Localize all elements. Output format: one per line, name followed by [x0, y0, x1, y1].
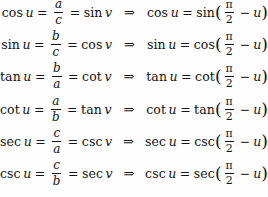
complement-angle-variable: v	[106, 166, 113, 181]
side-ratio-fraction: c a	[52, 127, 61, 156]
minus-sign: −	[237, 166, 253, 181]
close-paren: )	[261, 165, 268, 182]
cofunction-identity-expression: secu = csc( π 2 − u)	[143, 128, 268, 154]
fraction-denominator: b	[52, 175, 62, 188]
equals-sign: =	[64, 134, 81, 149]
equals-sign: =	[64, 166, 81, 181]
angle-variable: u	[168, 166, 176, 181]
open-paren: (	[215, 165, 222, 182]
open-paren: (	[215, 101, 222, 118]
trig-function-name: tan	[146, 69, 167, 84]
ratio-identity-expression: cscu = c b = secv	[0, 159, 115, 188]
ratio-identity-expression: tanu = b a = cotv	[0, 62, 113, 91]
equals-sign: =	[31, 166, 48, 181]
side-ratio-fraction: a c	[54, 0, 63, 26]
ratio-identity-expression: cosu = a c = sinv	[0, 0, 114, 26]
close-paren: )	[261, 133, 268, 150]
ratio-identity-expression: sinu = b c = cosv	[0, 30, 114, 59]
open-paren: (	[215, 68, 222, 85]
identity-row: cscu = c b = secv ⇒ cscu = sec( π 2 − u)	[0, 157, 268, 189]
cofunction-name: sec	[82, 166, 103, 181]
cofunction-identity-expression: sinu = cos( π 2 − u)	[145, 31, 268, 57]
complement-angle-variable: u	[253, 37, 261, 52]
implies-arrow-icon: ⇒	[115, 167, 143, 180]
complement-angle-variable: v	[104, 102, 111, 117]
implies-arrow-icon: ⇒	[114, 38, 145, 51]
angle-variable: u	[24, 134, 32, 149]
complement-angle-variable: u	[253, 5, 261, 20]
close-paren: )	[261, 68, 268, 85]
fraction-denominator: 2	[225, 111, 234, 123]
fraction-numerator: b	[52, 62, 62, 75]
complement-angle-variable: v	[105, 134, 112, 149]
cofunction-name: cos	[81, 37, 102, 52]
close-paren: )	[261, 36, 268, 53]
fraction-numerator: π	[225, 160, 234, 172]
minus-sign: −	[237, 69, 253, 84]
fraction-numerator: c	[52, 127, 61, 140]
complement-angle-variable: u	[253, 102, 261, 117]
fraction-denominator: a	[52, 78, 61, 91]
fraction-denominator: 2	[225, 78, 234, 90]
complement-angle-variable: v	[105, 37, 112, 52]
pi-over-two-fraction: π 2	[225, 0, 234, 25]
trig-function-name: sin	[147, 37, 166, 52]
side-ratio-fraction: b a	[52, 62, 62, 91]
trig-function-name: cos	[2, 5, 23, 20]
fraction-denominator: a	[52, 143, 61, 156]
pi-over-two-fraction: π 2	[225, 160, 234, 186]
minus-sign: −	[237, 5, 253, 20]
cofunction-identity-expression: cotu = tan( π 2 − u)	[144, 96, 268, 122]
fraction-numerator: b	[51, 30, 61, 43]
equals-sign: =	[31, 37, 48, 52]
trig-function-name: cot	[146, 102, 166, 117]
cofunction-name: csc	[194, 134, 215, 149]
trig-function-name: sec	[145, 134, 166, 149]
fraction-denominator: b	[51, 111, 61, 124]
equals-sign: =	[176, 166, 193, 181]
implies-arrow-icon: ⇒	[114, 135, 143, 148]
pi-over-two-fraction: π 2	[225, 96, 234, 122]
identity-row: sinu = b c = cosv ⇒ sinu = cos( π 2 − u)	[0, 28, 268, 60]
fraction-denominator: 2	[225, 175, 234, 187]
angle-variable: u	[170, 69, 178, 84]
fraction-numerator: π	[225, 31, 234, 43]
identity-row: secu = c a = cscv ⇒ secu = csc( π 2 − u)	[0, 125, 268, 157]
implies-arrow-icon: ⇒	[113, 103, 144, 116]
equals-sign: =	[65, 69, 82, 84]
equals-sign: =	[66, 5, 83, 20]
cofunction-name: tan	[194, 102, 215, 117]
equals-sign: =	[176, 37, 193, 52]
equals-sign: =	[34, 5, 51, 20]
cofunction-name: csc	[82, 134, 103, 149]
open-paren: (	[215, 4, 222, 21]
implies-arrow-icon: ⇒	[114, 6, 145, 19]
complement-angle-variable: v	[104, 69, 111, 84]
open-paren: (	[215, 36, 222, 53]
side-ratio-fraction: a b	[51, 95, 61, 124]
implies-arrow-icon: ⇒	[113, 70, 144, 83]
cofunction-name: cot	[82, 69, 102, 84]
complement-angle-variable: u	[253, 69, 261, 84]
trig-function-name: cot	[0, 102, 20, 117]
trig-function-name: tan	[0, 69, 21, 84]
equals-sign: =	[32, 134, 49, 149]
fraction-numerator: a	[51, 95, 60, 108]
cofunction-identity-expression: cscu = sec( π 2 − u)	[143, 160, 268, 186]
identity-row: tanu = b a = cotv ⇒ tanu = cot( π 2 − u)	[0, 60, 268, 92]
fraction-denominator: 2	[225, 143, 234, 155]
fraction-denominator: 2	[225, 14, 234, 26]
angle-variable: u	[23, 166, 31, 181]
equals-sign: =	[179, 5, 196, 20]
cofunction-name: cos	[194, 37, 215, 52]
cofunction-name: sec	[194, 166, 215, 181]
cofunction-name: sin	[196, 5, 215, 20]
fraction-numerator: π	[225, 128, 234, 140]
trig-function-name: csc	[145, 166, 166, 181]
cofunction-identity-expression: tanu = cot( π 2 − u)	[144, 63, 268, 89]
fraction-denominator: c	[51, 46, 60, 59]
side-ratio-fraction: b c	[51, 30, 61, 59]
equals-sign: =	[64, 37, 81, 52]
cofunction-identity-expression: cosu = sin( π 2 − u)	[145, 0, 268, 25]
fraction-numerator: π	[225, 96, 234, 108]
